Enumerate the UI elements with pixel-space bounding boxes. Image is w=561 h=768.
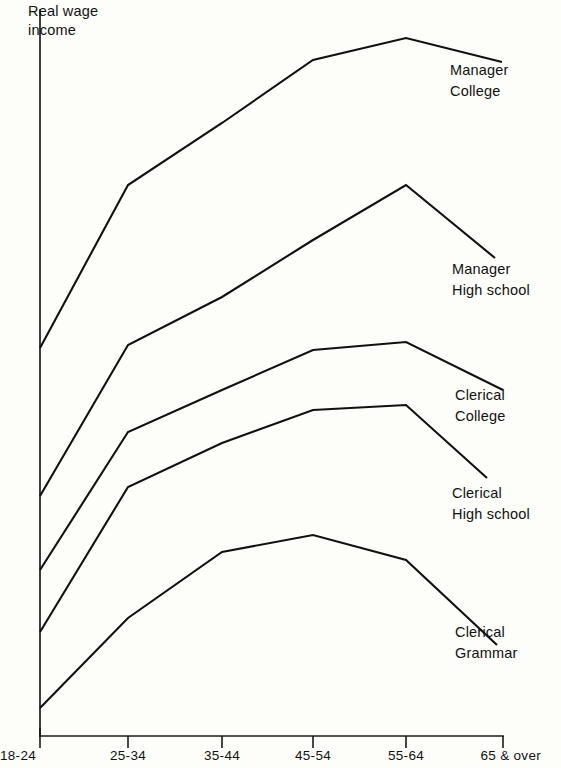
series-line-clerical-high-school — [40, 405, 487, 632]
x-axis-ticks — [40, 728, 503, 748]
x-tick-label-18-24: 18-24 — [0, 748, 36, 763]
series-label-line1: Manager — [450, 60, 509, 81]
series-label-line1: Clerical — [455, 385, 506, 406]
series-label-clerical-high-school: ClericalHigh school — [452, 483, 530, 525]
x-tick-label-55-64: 55-64 — [388, 748, 424, 763]
series-label-line2: College — [450, 81, 509, 102]
series-label-line2: High school — [452, 504, 530, 525]
series-label-line1: Clerical — [452, 483, 530, 504]
series-group — [40, 38, 503, 708]
x-tick-label-45-54: 45-54 — [295, 748, 331, 763]
series-label-clerical-grammar: ClericalGrammar — [455, 622, 518, 664]
series-label-line2: College — [455, 406, 506, 427]
series-line-manager-college — [40, 38, 502, 348]
line-chart: Real wage income ManagerCollegeManagerHi… — [0, 0, 561, 768]
series-label-clerical-college: ClericalCollege — [455, 385, 506, 427]
series-line-manager-high-school — [40, 185, 495, 496]
x-tick-label-25-34: 25-34 — [110, 748, 146, 763]
series-label-manager-high-school: ManagerHigh school — [452, 259, 530, 301]
series-label-line2: High school — [452, 280, 530, 301]
series-line-clerical-grammar — [40, 535, 497, 708]
y-axis-label: Real wage income — [28, 2, 98, 40]
x-tick-label-35-44: 35-44 — [204, 748, 240, 763]
series-label-line1: Manager — [452, 259, 530, 280]
x-tick-label-65-over: 65 & over — [481, 748, 541, 763]
series-label-line2: Grammar — [455, 643, 518, 664]
series-label-manager-college: ManagerCollege — [450, 60, 509, 102]
series-label-line1: Clerical — [455, 622, 518, 643]
